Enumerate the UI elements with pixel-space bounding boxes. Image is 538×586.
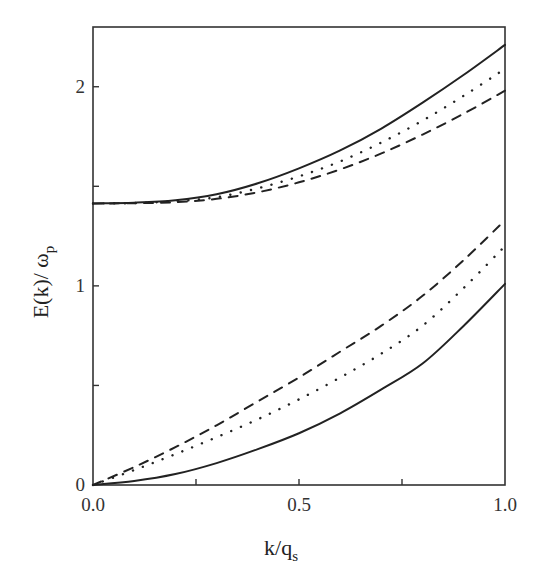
- y-tick-label: 1: [76, 275, 86, 296]
- plot-frame: [93, 27, 505, 485]
- x-axis-label: k/qs: [264, 535, 298, 564]
- tick-labels: 0.00.51.0012: [76, 76, 517, 515]
- y-tick-label: 0: [76, 474, 86, 495]
- x-tick-label: 0.0: [81, 494, 105, 515]
- series-dashed-upper: [93, 91, 505, 204]
- data-series: [93, 45, 505, 485]
- x-tick-label: 0.5: [287, 494, 311, 515]
- series-solid-lower: [93, 284, 505, 485]
- y-tick-label: 2: [76, 76, 86, 97]
- series-dotted-lower: [93, 246, 505, 485]
- series-dashed-lower: [93, 220, 505, 485]
- plot-border: [93, 27, 505, 485]
- axis-ticks: [93, 87, 402, 485]
- dispersion-chart: 0.00.51.0012 k/qs E(k)/ ωp: [0, 0, 538, 586]
- x-tick-label: 1.0: [493, 494, 517, 515]
- y-axis-label: E(k)/ ωp: [28, 246, 57, 319]
